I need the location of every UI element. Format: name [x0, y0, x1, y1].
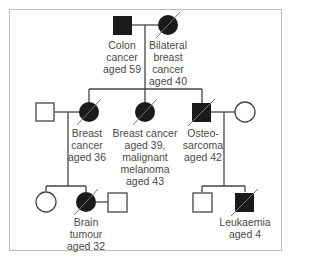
label-breast-cancer-36: Breastcanceraged 36 [68, 127, 106, 163]
female-unaffected-symbol [36, 192, 56, 212]
male-unaffected-symbol [36, 103, 54, 121]
label-bilateral-breast-cancer: Bilateralbreastcanceraged 40 [149, 39, 187, 87]
male-affected-symbol [113, 16, 132, 35]
label-osteosarcoma: Osteo-sarcomaaged 42 [183, 127, 223, 163]
female-unaffected-symbol [235, 102, 255, 122]
label-colon-cancer: Coloncanceraged 59 [103, 39, 141, 75]
male-unaffected-symbol [193, 193, 212, 212]
male-unaffected-symbol [108, 193, 127, 212]
label-leukaemia: Leukaemiaaged 4 [219, 216, 270, 240]
label-brain-tumour: Braintumouraged 32 [67, 216, 105, 252]
label-breast-cancer-39-melanoma: Breast canceraged 39,malignantmelanomaag… [113, 127, 178, 187]
